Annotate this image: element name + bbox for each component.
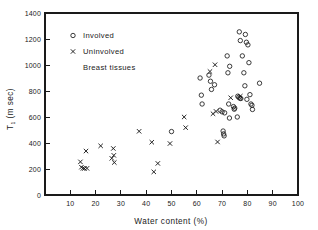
legend: Involved Uninvolved Breast tissues (71, 31, 136, 72)
x-tick-label: 80 (243, 200, 251, 207)
y-axis-ticks: 0200400600800100012001400 (25, 10, 50, 199)
data-point-uninvolved (78, 160, 82, 164)
data-point-uninvolved (152, 170, 156, 174)
data-point-involved (199, 93, 203, 97)
data-point-involved (245, 97, 249, 101)
data-point-involved (226, 71, 230, 75)
x-tick-label: 100 (292, 200, 304, 207)
data-point-involved (227, 116, 231, 120)
data-point-involved (226, 102, 230, 106)
data-point-uninvolved (168, 141, 172, 145)
y-tick-label: 1000 (25, 62, 41, 69)
data-point-uninvolved (211, 112, 215, 116)
y-tick-label: 600 (29, 114, 41, 121)
x-tick-label: 30 (117, 200, 125, 207)
x-tick-label: 60 (193, 200, 201, 207)
data-point-involved (243, 32, 247, 36)
data-point-uninvolved (137, 129, 141, 133)
data-point-uninvolved (156, 161, 160, 165)
data-point-involved (208, 79, 212, 83)
data-point-uninvolved (150, 140, 154, 144)
x-axis-ticks: 102030405060708090100 (66, 190, 304, 207)
legend-annotation: Breast tissues (83, 63, 136, 72)
data-point-uninvolved (98, 144, 102, 148)
legend-label-involved: Involved (83, 31, 114, 40)
legend-marker-uninvolved (71, 49, 75, 53)
x-tick-label: 10 (66, 200, 74, 207)
y-tick-label: 1400 (25, 10, 41, 17)
data-point-involved (248, 92, 252, 96)
data-point-uninvolved (215, 140, 219, 144)
series-involved-points (169, 30, 261, 138)
data-point-involved (207, 73, 211, 77)
data-point-involved (237, 30, 241, 34)
data-point-involved (247, 60, 251, 64)
data-point-involved (240, 54, 244, 58)
y-tick-label: 1200 (25, 36, 41, 43)
data-point-involved (198, 76, 202, 80)
y-tick-label: 200 (29, 166, 41, 173)
data-point-involved (227, 64, 231, 68)
data-point-uninvolved (85, 166, 89, 170)
x-tick-label: 20 (92, 200, 100, 207)
y-tick-label: 400 (29, 140, 41, 147)
data-point-uninvolved (213, 63, 217, 67)
svg-text:T1 (m sec): T1 (m sec) (6, 88, 16, 130)
data-point-uninvolved (229, 96, 233, 100)
y-axis-title-unit: (m sec) (6, 88, 15, 118)
data-point-involved (200, 102, 204, 106)
data-point-involved (209, 87, 213, 91)
data-point-involved (235, 115, 239, 119)
data-point-uninvolved (182, 115, 186, 119)
x-tick-label: 90 (269, 200, 277, 207)
x-tick-label: 70 (218, 200, 226, 207)
legend-label-uninvolved: Uninvolved (83, 47, 124, 56)
legend-marker-involved (71, 33, 75, 37)
data-point-involved (225, 54, 229, 58)
data-point-involved (250, 107, 254, 111)
data-point-uninvolved (112, 160, 116, 164)
scatter-plot-figure: 0200400600800100012001400 10203040506070… (0, 0, 318, 230)
data-point-uninvolved (84, 149, 88, 153)
y-tick-label: 800 (29, 88, 41, 95)
x-tick-label: 40 (142, 200, 150, 207)
series-uninvolved-points (78, 63, 242, 175)
data-point-involved (212, 83, 216, 87)
data-point-uninvolved (214, 109, 218, 113)
data-point-uninvolved (183, 125, 187, 129)
data-point-involved (243, 84, 247, 88)
y-tick-label: 0 (37, 192, 41, 199)
data-point-involved (169, 129, 173, 133)
y-axis-title: T1 (m sec) (6, 88, 16, 130)
data-point-involved (257, 81, 261, 85)
data-point-involved (238, 38, 242, 42)
data-point-uninvolved (111, 146, 115, 150)
data-point-involved (250, 103, 254, 107)
plot-canvas: 0200400600800100012001400 10203040506070… (0, 0, 318, 230)
x-axis-title: Water content (%) (134, 217, 207, 226)
x-tick-label: 50 (167, 200, 175, 207)
data-point-involved (242, 71, 246, 75)
